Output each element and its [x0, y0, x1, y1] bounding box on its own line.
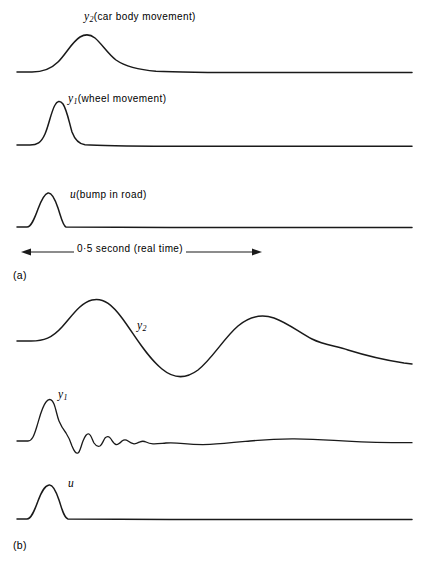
trace-a-y1 [17, 101, 412, 146]
subscript-2: 2 [142, 324, 146, 333]
trace-label-b-u: u [68, 478, 74, 490]
trace-label-a-y1: y1(wheel movement) [68, 93, 166, 106]
trace-a-y2 [17, 35, 412, 73]
symbol-u: u [68, 477, 74, 489]
trace-b-u [17, 485, 412, 520]
trace-description-a-u: (bump in road) [76, 189, 147, 200]
trace-b-y1 [17, 400, 412, 454]
trace-label-a-u: u(bump in road) [70, 189, 147, 201]
figure-root: y2(car body movement) y1(wheel movement)… [0, 0, 424, 563]
subscript-1: 1 [63, 393, 67, 402]
panel-label-a: (a) [13, 269, 27, 281]
trace-description-a-y1: (wheel movement) [78, 93, 167, 104]
trace-label-a-y2: y2(car body movement) [84, 11, 196, 24]
trace-description-a-y2: (car body movement) [94, 11, 196, 22]
trace-b-y2 [17, 299, 412, 376]
trace-label-b-y1: y1 [58, 389, 68, 402]
panel-label-b: (b) [13, 539, 27, 551]
trace-label-b-y2: y2 [137, 320, 147, 333]
figure-canvas [0, 0, 424, 563]
time-scale-label: 0·5 second (real time) [74, 243, 186, 254]
